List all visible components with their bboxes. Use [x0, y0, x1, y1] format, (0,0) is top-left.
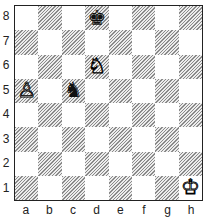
square-c6[interactable] — [62, 55, 85, 79]
square-d4[interactable] — [85, 103, 108, 127]
black-knight-icon[interactable]: ♞ — [64, 80, 83, 101]
square-c7[interactable] — [62, 30, 85, 54]
square-g6[interactable] — [155, 55, 178, 79]
rank-label-7: 7 — [0, 34, 12, 48]
square-a6[interactable] — [15, 55, 38, 79]
file-label-a: a — [14, 203, 38, 219]
square-d6[interactable]: ♘ — [85, 55, 108, 79]
square-c5[interactable]: ♞ — [62, 79, 85, 103]
square-a2[interactable] — [15, 152, 38, 176]
square-b8[interactable] — [38, 6, 61, 30]
file-label-h: h — [179, 203, 203, 219]
rank-label-3: 3 — [0, 132, 12, 146]
square-e8[interactable] — [109, 6, 132, 30]
file-label-g: g — [156, 203, 180, 219]
square-h1[interactable]: ♔ — [179, 176, 202, 200]
square-a3[interactable] — [15, 127, 38, 151]
square-c1[interactable] — [62, 176, 85, 200]
square-h5[interactable] — [179, 79, 202, 103]
rank-label-5: 5 — [0, 83, 12, 97]
square-g7[interactable] — [155, 30, 178, 54]
square-c8[interactable] — [62, 6, 85, 30]
square-h2[interactable] — [179, 152, 202, 176]
square-c4[interactable] — [62, 103, 85, 127]
square-g3[interactable] — [155, 127, 178, 151]
square-b5[interactable] — [38, 79, 61, 103]
square-e5[interactable] — [109, 79, 132, 103]
square-d8[interactable]: ♚ — [85, 6, 108, 30]
square-h8[interactable] — [179, 6, 202, 30]
square-g2[interactable] — [155, 152, 178, 176]
square-h3[interactable] — [179, 127, 202, 151]
square-b4[interactable] — [38, 103, 61, 127]
square-e4[interactable] — [109, 103, 132, 127]
square-f6[interactable] — [132, 55, 155, 79]
square-e3[interactable] — [109, 127, 132, 151]
square-d3[interactable] — [85, 127, 108, 151]
square-f5[interactable] — [132, 79, 155, 103]
square-b7[interactable] — [38, 30, 61, 54]
square-e7[interactable] — [109, 30, 132, 54]
square-c3[interactable] — [62, 127, 85, 151]
black-king-icon[interactable]: ♚ — [87, 8, 106, 29]
rank-label-4: 4 — [0, 107, 12, 121]
square-a4[interactable] — [15, 103, 38, 127]
chess-board[interactable]: ♚♘♙♞♔ — [14, 5, 203, 201]
file-label-c: c — [61, 203, 85, 219]
square-g5[interactable] — [155, 79, 178, 103]
square-g1[interactable] — [155, 176, 178, 200]
square-d5[interactable] — [85, 79, 108, 103]
file-label-b: b — [38, 203, 62, 219]
square-b2[interactable] — [38, 152, 61, 176]
square-f3[interactable] — [132, 127, 155, 151]
square-d7[interactable] — [85, 30, 108, 54]
square-f7[interactable] — [132, 30, 155, 54]
square-c2[interactable] — [62, 152, 85, 176]
square-a1[interactable] — [15, 176, 38, 200]
file-label-e: e — [109, 203, 133, 219]
file-label-f: f — [132, 203, 156, 219]
square-f1[interactable] — [132, 176, 155, 200]
white-pawn-icon[interactable]: ♙ — [17, 80, 36, 101]
square-h6[interactable] — [179, 55, 202, 79]
rank-label-8: 8 — [0, 9, 12, 23]
square-f4[interactable] — [132, 103, 155, 127]
square-g8[interactable] — [155, 6, 178, 30]
square-e1[interactable] — [109, 176, 132, 200]
square-a8[interactable] — [15, 6, 38, 30]
square-b6[interactable] — [38, 55, 61, 79]
square-h7[interactable] — [179, 30, 202, 54]
rank-label-1: 1 — [0, 181, 12, 195]
square-e6[interactable] — [109, 55, 132, 79]
square-a5[interactable]: ♙ — [15, 79, 38, 103]
square-g4[interactable] — [155, 103, 178, 127]
square-a7[interactable] — [15, 30, 38, 54]
square-d1[interactable] — [85, 176, 108, 200]
rank-label-6: 6 — [0, 58, 12, 72]
square-f2[interactable] — [132, 152, 155, 176]
square-d2[interactable] — [85, 152, 108, 176]
file-label-d: d — [85, 203, 109, 219]
white-king-icon[interactable]: ♔ — [181, 177, 200, 198]
square-h4[interactable] — [179, 103, 202, 127]
square-b1[interactable] — [38, 176, 61, 200]
white-knight-icon[interactable]: ♘ — [87, 56, 106, 77]
square-e2[interactable] — [109, 152, 132, 176]
square-b3[interactable] — [38, 127, 61, 151]
rank-label-2: 2 — [0, 156, 12, 170]
square-f8[interactable] — [132, 6, 155, 30]
